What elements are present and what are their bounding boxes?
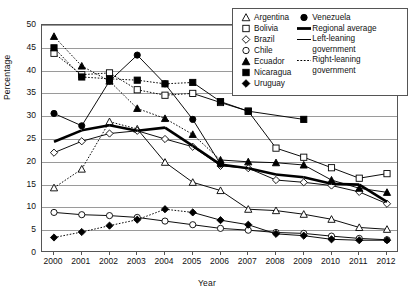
- circle-open-icon: [243, 47, 249, 53]
- series-line-segment: [137, 129, 165, 162]
- data-point-marker: [161, 115, 168, 122]
- data-point-marker: [51, 110, 57, 116]
- series-line-segment: [221, 160, 249, 162]
- data-point-marker: [245, 108, 251, 114]
- data-point-marker: [245, 221, 252, 228]
- series-line-segment: [137, 131, 165, 139]
- data-point-marker: [50, 234, 57, 241]
- series-line-segment: [137, 108, 165, 118]
- diamond-filled-icon: [238, 78, 254, 89]
- data-point-marker: [106, 70, 112, 76]
- series-line-segment: [82, 81, 110, 126]
- data-point-marker: [272, 176, 279, 183]
- y-tick-label: 10: [0, 201, 36, 211]
- data-point-marker: [78, 228, 85, 235]
- series-line-segment: [165, 93, 193, 95]
- square-filled-icon: [243, 69, 249, 75]
- series-line-segment: [276, 232, 304, 233]
- data-point-marker: [190, 222, 196, 228]
- triangle-filled-icon: [242, 58, 250, 65]
- square-filled-icon: [238, 67, 254, 78]
- legend-item[interactable]: Argentina: [238, 12, 291, 23]
- series-line-segment: [54, 212, 82, 214]
- data-point-marker: [384, 171, 390, 177]
- x-tick-label: 2012: [369, 256, 403, 266]
- data-point-marker: [78, 165, 85, 172]
- legend-item[interactable]: Venezuela: [296, 12, 386, 23]
- series-line-segment: [304, 236, 332, 240]
- diamond-open-icon: [242, 36, 250, 44]
- legend-item-label: Brazil: [254, 34, 274, 45]
- series-line-segment: [332, 186, 360, 192]
- series-line-segment: [332, 184, 360, 185]
- series-line-segment: [193, 225, 221, 229]
- chart-legend: ArgentinaBoliviaBrazilChileEcuadorNicara…: [232, 8, 408, 96]
- data-point-marker: [134, 87, 140, 93]
- series-line-segment: [248, 111, 276, 148]
- series-line-segment: [54, 169, 82, 188]
- series-line-segment: [359, 174, 387, 179]
- series-line-segment: [359, 238, 387, 239]
- data-point-marker: [106, 130, 113, 137]
- triangle-filled-icon: [238, 56, 254, 67]
- data-point-marker: [134, 77, 140, 83]
- series-line-segment: [276, 148, 304, 157]
- data-point-marker: [300, 179, 307, 186]
- series-line-segment: [54, 141, 82, 152]
- x-axis-title: Year: [0, 278, 414, 288]
- series-line-segment: [332, 168, 360, 178]
- triangle-open-icon: [242, 14, 250, 21]
- y-tick-label: 40: [0, 65, 36, 75]
- series-line-segment: [221, 228, 249, 230]
- data-point-marker: [301, 154, 307, 160]
- series-line-segment: [221, 191, 249, 210]
- series-line-segment: [110, 125, 138, 130]
- series-line-segment: [54, 232, 82, 237]
- legend-item[interactable]: Right-leaning government: [296, 55, 386, 76]
- series-line-segment: [54, 113, 82, 125]
- dotted-line-icon: [296, 55, 312, 66]
- y-tick-label: 15: [0, 179, 36, 189]
- legend-column-left: ArgentinaBoliviaBrazilChileEcuadorNicara…: [238, 12, 291, 89]
- legend-item[interactable]: Uruguay: [238, 78, 291, 89]
- data-point-marker: [50, 33, 57, 40]
- data-point-marker: [217, 99, 223, 105]
- legend-item[interactable]: Bolivia: [238, 23, 291, 34]
- series-line-segment: [82, 73, 110, 75]
- series-line-segment: [276, 175, 304, 178]
- series-line-segment: [332, 239, 360, 240]
- series-line-segment: [165, 118, 193, 134]
- series-line-segment: [276, 163, 304, 165]
- legend-item[interactable]: Left-leaning government: [296, 34, 386, 55]
- data-point-marker: [189, 209, 196, 216]
- data-point-marker: [78, 138, 85, 145]
- data-point-marker: [356, 175, 362, 181]
- data-point-marker: [189, 131, 196, 138]
- data-point-marker: [51, 209, 57, 215]
- legend-item[interactable]: Brazil: [238, 34, 291, 45]
- circle-open-icon: [238, 45, 254, 56]
- legend-item[interactable]: Regional average: [296, 23, 386, 34]
- series-line-segment: [82, 215, 110, 216]
- legend-item[interactable]: Chile: [238, 45, 291, 56]
- diamond-filled-icon: [242, 80, 250, 88]
- legend-item-label: Chile: [254, 45, 273, 56]
- series-line-segment: [248, 225, 276, 234]
- data-point-marker: [217, 217, 224, 224]
- series-line-segment: [82, 226, 110, 232]
- diamond-open-icon: [238, 34, 254, 45]
- series-line-segment: [82, 134, 110, 142]
- y-tick-label: 0: [0, 247, 36, 257]
- legend-item-label: Uruguay: [254, 78, 285, 89]
- series-line-segment: [110, 73, 138, 90]
- data-point-marker: [79, 74, 85, 80]
- data-point-marker: [190, 116, 196, 122]
- data-point-marker: [106, 118, 113, 125]
- legend-item[interactable]: Nicaragua: [238, 67, 291, 78]
- legend-item[interactable]: Ecuador: [238, 56, 291, 67]
- series-line-segment: [332, 236, 360, 238]
- series-line-segment: [193, 119, 221, 164]
- series-line-segment: [110, 220, 138, 226]
- series-line-segment: [304, 214, 332, 219]
- series-line-segment: [248, 111, 304, 119]
